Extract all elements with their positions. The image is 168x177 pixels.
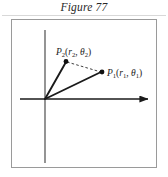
point-marker-p2 [64,59,69,64]
figure-frame [12,20,157,168]
point-label-p2-paren-close: ) [88,47,91,58]
point-marker-p1 [100,70,105,75]
figure-container: Figure 77 P2(r2, θ2) P1(r1, θ1) [0,0,168,177]
point-label-p1-paren-close: ) [139,68,142,79]
figure-plot: P2(r2, θ2) P1(r1, θ1) [0,0,168,177]
